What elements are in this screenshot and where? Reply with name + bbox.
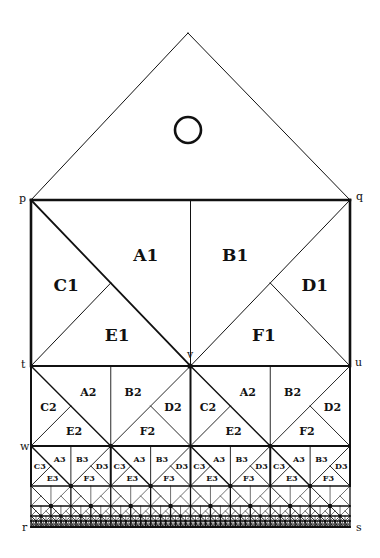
point-label-r: r xyxy=(22,521,28,534)
inner-right xyxy=(325,511,330,516)
region-label-f2: F2 xyxy=(140,425,155,438)
inner-right xyxy=(245,511,250,516)
level-4-cell xyxy=(71,486,111,508)
region-label-a2: A2 xyxy=(79,386,96,399)
inner-left xyxy=(310,511,315,516)
region-label-c3: C3 xyxy=(193,461,205,471)
point-label-s: s xyxy=(356,521,362,534)
region-label-f3: F3 xyxy=(323,473,335,483)
inner-left xyxy=(191,496,201,506)
inner-right xyxy=(225,511,230,516)
inner-right xyxy=(340,496,350,506)
recursive-square-diagram: A1B1C1D1E1F1A2B2C2D2E2F2A2B2C2D2E2F2A3B3… xyxy=(0,0,380,558)
inner-right xyxy=(220,496,230,506)
level-4-cell xyxy=(111,486,151,508)
inner-left xyxy=(210,511,215,516)
inner-left xyxy=(91,511,96,516)
inner-left xyxy=(151,496,161,506)
region-label-e2: E2 xyxy=(66,425,82,438)
inner-right xyxy=(305,511,310,516)
region-label-e3: E3 xyxy=(126,473,138,483)
region-label-d2: D2 xyxy=(324,401,341,414)
region-label-c3: C3 xyxy=(114,461,126,471)
region-label-e3: E3 xyxy=(206,473,218,483)
inner-right xyxy=(181,496,191,506)
inner-left xyxy=(171,511,176,516)
inner-left xyxy=(31,283,111,366)
inner-left xyxy=(310,496,320,506)
inner-right xyxy=(345,511,350,516)
inner-left xyxy=(250,511,255,516)
region-label-b3: B3 xyxy=(76,454,89,464)
roof-left-edge xyxy=(31,33,188,200)
inner-right xyxy=(61,496,71,506)
region-label-f3: F3 xyxy=(84,473,96,483)
region-label-b3: B3 xyxy=(156,454,169,464)
region-label-b1: B1 xyxy=(222,245,248,265)
region-label-a3: A3 xyxy=(133,454,146,464)
region-label-f1: F1 xyxy=(252,325,276,345)
inner-left xyxy=(111,511,116,516)
roof-right-edge xyxy=(188,33,350,200)
inner-right xyxy=(46,511,51,516)
region-label-d3: D3 xyxy=(175,461,188,471)
circle-symbol xyxy=(175,117,201,143)
inner-right xyxy=(126,511,131,516)
region-label-e3: E3 xyxy=(47,473,59,483)
level-4-cell xyxy=(270,486,310,508)
point-label-w: w xyxy=(20,440,30,453)
region-label-b3: B3 xyxy=(235,454,248,464)
region-label-f3: F3 xyxy=(163,473,175,483)
inner-left xyxy=(290,511,295,516)
inner-left xyxy=(330,511,335,516)
region-label-b2: B2 xyxy=(284,386,301,399)
inner-left xyxy=(191,511,196,516)
region-label-d1: D1 xyxy=(302,275,329,295)
region-label-c2: C2 xyxy=(40,401,56,414)
inner-left xyxy=(151,511,156,516)
region-label-a3: A3 xyxy=(53,454,66,464)
inner-right xyxy=(260,496,270,506)
point-label-u: u xyxy=(355,356,362,369)
inner-right xyxy=(86,511,91,516)
inner-right xyxy=(265,511,270,516)
region-label-f3: F3 xyxy=(243,473,255,483)
inner-right xyxy=(146,511,151,516)
inner-left xyxy=(71,511,76,516)
level-4-cell xyxy=(230,486,270,508)
region-label-d3: D3 xyxy=(335,461,348,471)
inner-left xyxy=(111,496,121,506)
level-4-cell xyxy=(310,486,350,508)
point-label-v: v xyxy=(186,348,194,361)
region-label-c1: C1 xyxy=(53,275,78,295)
region-label-d3: D3 xyxy=(255,461,268,471)
inner-right xyxy=(101,496,111,506)
level-4-cell xyxy=(151,486,191,508)
inner-right xyxy=(106,511,111,516)
region-label-b3: B3 xyxy=(315,454,328,464)
inner-right xyxy=(166,511,171,516)
inner-right xyxy=(205,511,210,516)
region-label-d2: D2 xyxy=(164,401,181,414)
region-label-b2: B2 xyxy=(125,386,142,399)
inner-right xyxy=(270,283,350,366)
inner-left xyxy=(270,511,275,516)
inner-left xyxy=(51,511,56,516)
region-label-e2: E2 xyxy=(226,425,242,438)
inner-left xyxy=(31,496,41,506)
inner-right xyxy=(186,511,191,516)
region-label-a1: A1 xyxy=(132,245,158,265)
inner-left xyxy=(71,496,81,506)
region-label-a2: A2 xyxy=(239,386,256,399)
region-label-e3: E3 xyxy=(286,473,298,483)
inner-right xyxy=(66,511,71,516)
region-label-c3: C3 xyxy=(34,461,46,471)
inner-left xyxy=(270,496,280,506)
inner-right xyxy=(285,511,290,516)
region-label-e1: E1 xyxy=(105,325,130,345)
inner-right xyxy=(300,496,310,506)
level-4-cell xyxy=(31,486,71,508)
point-label-t: t xyxy=(21,358,26,371)
point-label-p: p xyxy=(19,192,26,205)
level-4-cell xyxy=(191,486,231,508)
